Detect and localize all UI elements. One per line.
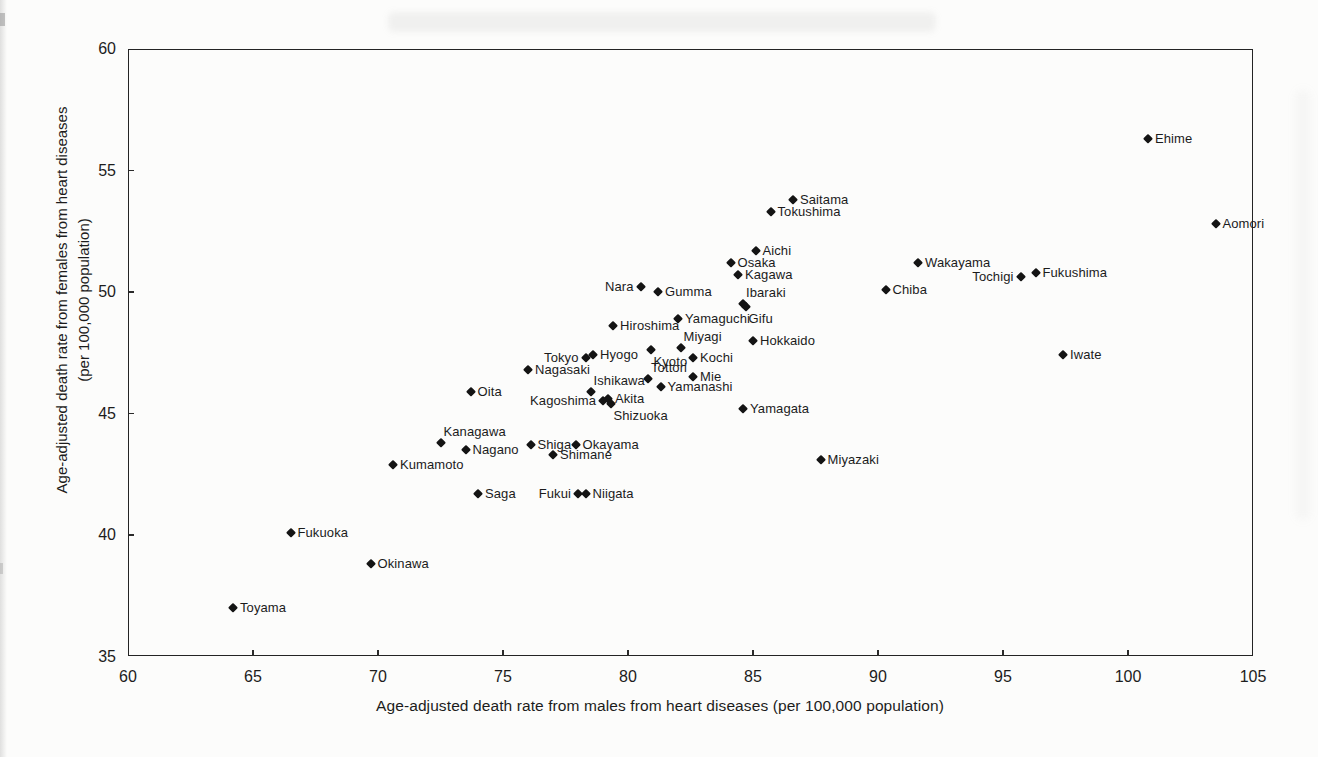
- data-point-label: Yamagata: [750, 400, 809, 415]
- data-point-label: Miyazaki: [828, 451, 879, 466]
- data-point-label: Hokkaido: [760, 332, 815, 347]
- scan-edge-mark: [0, 13, 5, 26]
- x-tick-mark: [1002, 650, 1004, 656]
- y-axis-title: Age-adjusted death rate from females fro…: [51, 80, 95, 520]
- data-point-label: Saga: [485, 485, 516, 500]
- x-tick-mark: [377, 650, 379, 656]
- data-point-label: Niigata: [593, 485, 634, 500]
- data-point-label: Akita: [615, 391, 644, 406]
- y-tick-mark: [129, 170, 134, 172]
- data-point-label: Gumma: [665, 284, 712, 299]
- data-point-label: Fukui: [539, 486, 571, 501]
- y-tick-mark: [129, 413, 134, 415]
- x-tick-mark: [252, 650, 254, 656]
- x-tick-label: 85: [744, 668, 762, 686]
- scan-edge-mark: [0, 563, 3, 574]
- data-point-label: Iwate: [1070, 347, 1102, 362]
- data-point-label: Kagawa: [745, 267, 793, 282]
- data-point-label: Okinawa: [378, 556, 429, 571]
- y-tick-label: 55: [98, 162, 116, 180]
- scanned-scatter-chart-page: Age-adjusted death rate from females fro…: [0, 0, 1318, 757]
- x-tick-label: 90: [869, 668, 887, 686]
- x-tick-label: 95: [994, 668, 1012, 686]
- data-point-label: Wakayama: [925, 255, 990, 270]
- data-point-label: Kanagawa: [444, 424, 506, 439]
- x-tick-mark: [502, 650, 504, 656]
- x-tick-label: 75: [494, 668, 512, 686]
- x-tick-label: 100: [1115, 668, 1142, 686]
- data-point-label: Mie: [700, 369, 721, 384]
- data-point-label: Kochi: [700, 349, 733, 364]
- y-axis-title-line1: Age-adjusted death rate from females fro…: [51, 80, 73, 520]
- x-axis-title: Age-adjusted death rate from males from …: [376, 697, 944, 715]
- x-tick-label: 105: [1240, 668, 1267, 686]
- data-point-label: Fukuoka: [298, 524, 349, 539]
- data-point-label: Nagano: [473, 442, 519, 457]
- y-tick-label: 35: [98, 648, 116, 666]
- data-point-label: Toyama: [240, 600, 286, 615]
- data-point-label: Fukushima: [1043, 264, 1107, 279]
- data-point-label: Miyagi: [684, 329, 722, 344]
- data-point-label: Nara: [605, 279, 634, 294]
- data-point-label: Shizuoka: [614, 408, 668, 423]
- data-point-label: Kyoto: [654, 354, 688, 369]
- x-tick-mark: [1127, 650, 1129, 656]
- y-tick-label: 60: [98, 40, 116, 58]
- x-tick-label: 70: [369, 668, 387, 686]
- y-tick-mark: [129, 291, 134, 293]
- y-axis-title-line2: (per 100,000 population): [73, 80, 95, 520]
- x-tick-mark: [752, 650, 754, 656]
- scan-showthrough-smudge: [1296, 90, 1310, 520]
- y-tick-mark: [129, 534, 134, 536]
- data-point-label: Oita: [478, 383, 502, 398]
- data-point-label: Saitama: [800, 191, 848, 206]
- y-tick-label: 50: [98, 283, 116, 301]
- data-point-label: Yamaguchi: [685, 310, 750, 325]
- data-point-label: Chiba: [893, 281, 927, 296]
- data-point-label: Hiroshima: [620, 318, 679, 333]
- data-point-label: Ehime: [1155, 131, 1192, 146]
- x-tick-label: 80: [619, 668, 637, 686]
- x-tick-label: 60: [119, 668, 137, 686]
- x-tick-mark: [877, 650, 879, 656]
- y-tick-label: 40: [98, 526, 116, 544]
- data-point-label: Aichi: [763, 242, 792, 257]
- data-point-label: Aomori: [1223, 216, 1265, 231]
- data-point-label: Tokyo: [544, 350, 578, 365]
- scan-edge-strip: [0, 0, 7, 757]
- y-tick-label: 45: [98, 405, 116, 423]
- x-tick-mark: [627, 650, 629, 656]
- scan-showthrough-smudge: [388, 12, 936, 32]
- data-point-label: Kagoshima: [530, 394, 596, 409]
- data-point-label: Ibaraki: [746, 285, 786, 300]
- x-tick-label: 65: [244, 668, 262, 686]
- data-point-label: Hyogo: [600, 347, 638, 362]
- data-point-label: Ishikawa: [594, 373, 645, 388]
- data-point-label: Gifu: [749, 311, 773, 326]
- data-point-label: Kumamoto: [400, 456, 464, 471]
- data-point-label: Okayama: [583, 437, 639, 452]
- data-point-label: Tochigi: [972, 270, 1013, 285]
